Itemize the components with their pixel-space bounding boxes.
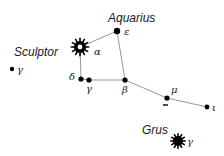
star-mu: μ: [164, 84, 177, 101]
star-label-mu: μ: [171, 84, 178, 95]
star-label-sculptor-gamma: γ: [17, 64, 23, 75]
constellation-label-aquarius: Aquarius: [107, 11, 155, 25]
star-dot-icon: [164, 95, 169, 100]
star-label-beta: β: [121, 84, 128, 95]
star-label-epsilon: ε: [124, 26, 129, 37]
constellation-label-sculptor: Sculptor: [14, 45, 59, 59]
line-mu-iota: [167, 98, 207, 107]
star-dot-icon: [10, 67, 14, 71]
star-grus-gamma: γ: [171, 134, 193, 149]
star-epsilon: ε: [114, 26, 130, 37]
star-label-gamma: γ: [86, 83, 92, 94]
line-beta-mu: [125, 80, 167, 98]
constellation-labels: AquariusSculptorGrus: [14, 11, 168, 137]
star-burst-icon: [171, 134, 186, 149]
star-alpha: α: [71, 38, 101, 57]
star-dot-icon: [86, 77, 91, 82]
star-label-delta: δ: [69, 71, 75, 82]
star-dot-icon: [114, 28, 120, 34]
star-delta: δ: [69, 71, 84, 82]
star-label-alpha: α: [94, 46, 101, 57]
star-dot-icon: [205, 105, 210, 110]
star-label-iota: ι: [212, 102, 216, 113]
line-epsilon-beta: [117, 31, 125, 80]
constellation-label-grus: Grus: [142, 123, 168, 137]
star-burst-icon: [71, 38, 88, 55]
star-dot-icon: [122, 77, 127, 82]
star-gamma: γ: [86, 77, 92, 94]
constellation-lines: [80, 31, 207, 107]
star-label-grus-gamma: γ: [187, 136, 193, 147]
star-chart: εαγδγβμιγ AquariusSculptorGrus: [0, 0, 224, 156]
star-iota: ι: [205, 102, 216, 113]
star-dot-icon: [78, 76, 83, 81]
star-sculptor-gamma: γ: [10, 64, 23, 75]
